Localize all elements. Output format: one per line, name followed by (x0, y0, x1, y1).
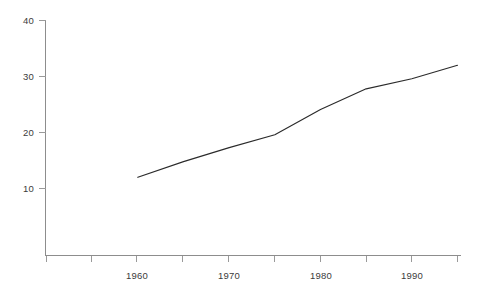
x-tick-label-1990: 1990 (401, 270, 423, 281)
y-tick-label-20: 20 (23, 127, 34, 138)
y-tick-label-40: 40 (23, 15, 34, 26)
x-tick-label-1970: 1970 (218, 270, 240, 281)
chart-background (0, 0, 478, 294)
x-tick-label-1960: 1960 (126, 270, 148, 281)
x-tick-label-1980: 1980 (310, 270, 332, 281)
y-tick-label-30: 30 (23, 71, 34, 82)
y-tick-label-10: 10 (23, 183, 34, 194)
chart-canvas: 40 30 20 10 1960 1970 1980 1990 (0, 0, 478, 294)
line-chart: 40 30 20 10 1960 1970 1980 1990 (0, 0, 478, 294)
